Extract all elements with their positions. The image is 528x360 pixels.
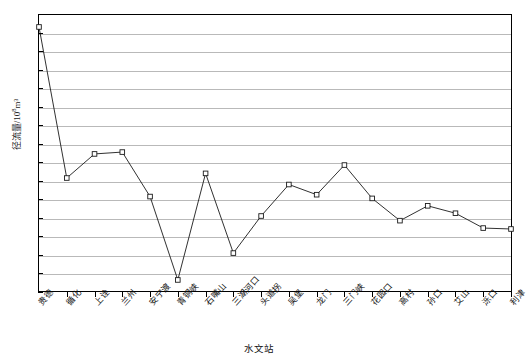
y-axis-title: 径流量/108m³ bbox=[10, 65, 23, 185]
data-point-3 bbox=[120, 150, 125, 155]
y-tick-mark bbox=[38, 144, 43, 145]
y-tick-mark bbox=[38, 255, 43, 256]
data-point-14 bbox=[425, 204, 430, 209]
y-tick-mark bbox=[38, 88, 43, 89]
data-point-7 bbox=[231, 251, 236, 256]
data-point-5 bbox=[176, 278, 181, 283]
data-point-6 bbox=[203, 171, 208, 176]
y-tick-mark bbox=[38, 70, 43, 71]
y-axis-title-tail: m³ bbox=[12, 99, 22, 109]
data-point-15 bbox=[453, 211, 458, 216]
x-axis-title: 水文站 bbox=[0, 341, 518, 355]
y-tick-mark bbox=[38, 51, 43, 52]
series-line bbox=[39, 27, 511, 280]
y-tick-mark bbox=[38, 218, 43, 219]
data-point-10 bbox=[314, 192, 319, 197]
data-point-12 bbox=[370, 196, 375, 201]
y-tick-mark bbox=[38, 33, 43, 34]
data-point-9 bbox=[287, 182, 292, 187]
series-overlay bbox=[38, 14, 512, 292]
data-point-1 bbox=[64, 176, 69, 181]
y-axis-title-main: 径流量/10 bbox=[12, 112, 22, 151]
data-point-17 bbox=[509, 227, 514, 232]
data-point-13 bbox=[398, 218, 403, 223]
y-tick-mark bbox=[38, 236, 43, 237]
data-point-0 bbox=[37, 25, 42, 30]
y-tick-mark bbox=[38, 162, 43, 163]
y-tick-mark bbox=[38, 273, 43, 274]
y-tick-mark bbox=[38, 199, 43, 200]
data-point-11 bbox=[342, 163, 347, 168]
y-tick-mark bbox=[38, 125, 43, 126]
data-point-8 bbox=[259, 214, 264, 219]
data-point-2 bbox=[92, 152, 97, 157]
data-point-16 bbox=[481, 226, 486, 231]
y-tick-mark bbox=[38, 107, 43, 108]
y-axis-title-exponent: 8 bbox=[10, 108, 17, 111]
data-point-4 bbox=[148, 194, 153, 199]
y-tick-mark bbox=[38, 14, 43, 15]
y-tick-mark bbox=[38, 181, 43, 182]
